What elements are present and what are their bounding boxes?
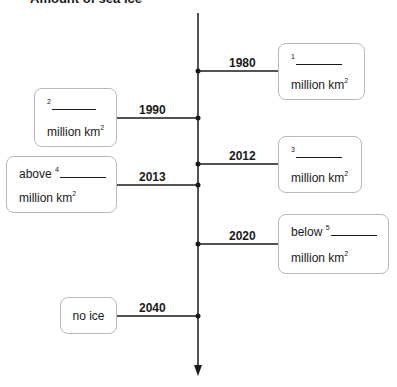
arrow-head-icon	[194, 365, 202, 376]
answer-blank-5[interactable]	[331, 225, 377, 236]
answer-blank-4[interactable]	[60, 167, 106, 178]
year-label-2012: 2012	[229, 149, 256, 163]
year-label-1990: 1990	[139, 103, 166, 117]
answer-blank-2[interactable]	[52, 99, 96, 110]
unit-label: million km	[291, 171, 344, 185]
unit-label: million km	[291, 78, 344, 92]
unit-superscript: 2	[100, 124, 104, 131]
year-label-2040: 2040	[139, 301, 166, 315]
blank-number: 4	[55, 166, 59, 173]
year-label-2013: 2013	[139, 170, 166, 184]
answer-box-2012: 3 million km2	[278, 136, 362, 193]
unit-superscript: 2	[344, 77, 348, 84]
unit-superscript: 2	[72, 190, 76, 197]
answer-box-1980: 1 million km2	[278, 43, 365, 100]
prefix-label: above	[19, 167, 52, 181]
unit-superscript: 2	[344, 170, 348, 177]
answer-blank-1[interactable]	[296, 54, 342, 65]
answer-box-2013: above 4 million km2	[6, 156, 117, 213]
answer-box-2020: below 5 million km2	[278, 214, 389, 274]
unit-label: million km	[291, 251, 344, 265]
unit-label: million km	[47, 125, 100, 139]
unit-label: million km	[19, 191, 72, 205]
year-label-1980: 1980	[229, 56, 256, 70]
unit-superscript: 2	[344, 250, 348, 257]
blank-number: 3	[291, 146, 295, 153]
answer-box-2040: no ice	[60, 297, 117, 334]
prefix-label: below	[291, 225, 322, 239]
no-ice-label: no ice	[72, 309, 104, 323]
answer-blank-3[interactable]	[296, 147, 342, 158]
answer-box-1990: 2 million km2	[34, 88, 117, 147]
blank-number: 2	[47, 98, 51, 105]
blank-number: 5	[326, 224, 330, 231]
year-label-2020: 2020	[229, 229, 256, 243]
blank-number: 1	[291, 53, 295, 60]
